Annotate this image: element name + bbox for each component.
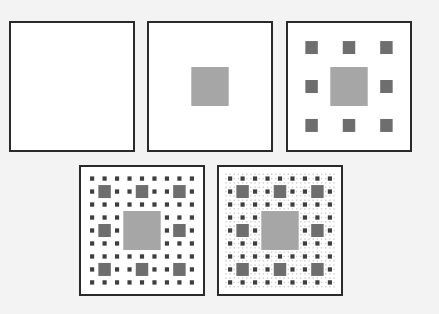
carpet-hole-level-4 — [325, 230, 326, 231]
carpet-hole-level-4 — [246, 178, 247, 179]
carpet-hole-level-4 — [296, 178, 297, 179]
carpet-hole-level-4 — [325, 195, 326, 196]
carpet-hole-level-4 — [283, 178, 284, 179]
carpet-hole-level-4 — [321, 199, 322, 200]
carpet-hole-level-3 — [190, 254, 194, 258]
carpet-hole-level-4 — [259, 191, 260, 192]
carpet-hole-level-3 — [228, 241, 232, 245]
carpet-hole-level-4 — [292, 199, 293, 200]
carpet-hole-level-4 — [333, 174, 334, 175]
carpet-hole-level-4 — [246, 212, 247, 213]
carpet-hole-level-4 — [333, 187, 334, 188]
carpet-hole-level-4 — [296, 264, 297, 265]
carpet-hole-level-4 — [288, 282, 289, 283]
carpet-hole-level-4 — [225, 247, 226, 248]
carpet-hole-level-4 — [279, 182, 280, 183]
carpet-hole-level-4 — [333, 269, 334, 270]
carpet-hole-level-4 — [254, 260, 255, 261]
carpet-hole-level-4 — [279, 208, 280, 209]
carpet-hole-level-4 — [300, 174, 301, 175]
carpet-hole-level-4 — [300, 282, 301, 283]
carpet-hole-level-4 — [304, 247, 305, 248]
carpet-hole-level-3 — [328, 228, 332, 232]
carpet-hole-level-3 — [278, 176, 282, 180]
carpet-hole-level-3 — [241, 176, 245, 180]
carpet-hole-level-4 — [325, 212, 326, 213]
carpet-hole-level-3 — [253, 202, 257, 206]
carpet-hole-level-4 — [250, 174, 251, 175]
carpet-hole-level-3 — [253, 267, 257, 271]
carpet-hole-level-4 — [279, 251, 280, 252]
carpet-hole-level-4 — [242, 174, 243, 175]
carpet-hole-level-3 — [290, 254, 294, 258]
carpet-hole-level-3 — [152, 176, 156, 180]
carpet-hole-level-4 — [296, 269, 297, 270]
carpet-hole-level-4 — [246, 256, 247, 257]
carpet-hole-level-4 — [325, 247, 326, 248]
carpet-hole-level-2 — [136, 263, 148, 276]
carpet-hole-level-2 — [305, 41, 317, 54]
carpet-hole-level-4 — [238, 174, 239, 175]
carpet-hole-level-4 — [308, 238, 309, 239]
carpet-hole-level-3 — [253, 228, 257, 232]
carpet-hole-level-4 — [238, 178, 239, 179]
carpet-hole-level-4 — [250, 251, 251, 252]
carpet-hole-level-4 — [254, 199, 255, 200]
carpet-hole-level-4 — [259, 230, 260, 231]
carpet-hole-level-4 — [246, 217, 247, 218]
carpet-hole-level-4 — [234, 174, 235, 175]
carpet-hole-level-4 — [234, 182, 235, 183]
carpet-hole-level-4 — [333, 199, 334, 200]
carpet-hole-level-4 — [225, 286, 226, 287]
carpet-hole-level-4 — [225, 195, 226, 196]
carpet-hole-level-1 — [191, 67, 228, 106]
carpet-hole-level-4 — [325, 260, 326, 261]
carpet-hole-level-4 — [279, 277, 280, 278]
carpet-hole-level-4 — [271, 264, 272, 265]
carpet-hole-level-4 — [267, 260, 268, 261]
carpet-hole-level-2 — [274, 185, 286, 198]
carpet-hole-level-3 — [303, 215, 307, 219]
carpet-hole-level-4 — [300, 277, 301, 278]
carpet-hole-level-4 — [283, 182, 284, 183]
carpet-hole-level-3 — [253, 254, 257, 258]
carpet-hole-level-4 — [229, 182, 230, 183]
carpet-hole-level-3 — [253, 215, 257, 219]
carpet-hole-level-4 — [304, 199, 305, 200]
carpet-hole-level-3 — [165, 189, 169, 193]
carpet-hole-level-3 — [190, 189, 194, 193]
carpet-hole-level-4 — [300, 217, 301, 218]
carpet-hole-level-4 — [242, 212, 243, 213]
carpet-hole-level-4 — [317, 174, 318, 175]
carpet-hole-level-3 — [165, 241, 169, 245]
carpet-hole-level-3 — [90, 241, 94, 245]
carpet-hole-level-4 — [250, 264, 251, 265]
carpet-hole-level-4 — [313, 221, 314, 222]
carpet-hole-level-4 — [308, 260, 309, 261]
carpet-hole-level-4 — [229, 199, 230, 200]
carpet-hole-level-4 — [333, 208, 334, 209]
carpet-hole-level-4 — [325, 282, 326, 283]
carpet-hole-level-4 — [325, 174, 326, 175]
carpet-hole-level-4 — [313, 260, 314, 261]
carpet-hole-level-3 — [140, 254, 144, 258]
carpet-hole-level-4 — [229, 208, 230, 209]
carpet-hole-level-3 — [140, 176, 144, 180]
carpet-hole-level-3 — [241, 215, 245, 219]
carpet-hole-level-4 — [304, 238, 305, 239]
carpet-hole-level-4 — [313, 182, 314, 183]
carpet-hole-level-4 — [329, 251, 330, 252]
carpet-hole-level-3 — [315, 254, 319, 258]
carpet-hole-level-4 — [263, 256, 264, 257]
carpet-hole-level-4 — [263, 269, 264, 270]
carpet-panel-iteration-0 — [9, 21, 135, 152]
carpet-hole-level-4 — [333, 225, 334, 226]
carpet-hole-level-4 — [271, 187, 272, 188]
carpet-hole-level-4 — [250, 286, 251, 287]
carpet-hole-level-4 — [333, 273, 334, 274]
carpet-hole-level-2 — [343, 41, 355, 54]
carpet-hole-level-4 — [259, 234, 260, 235]
carpet-hole-level-4 — [246, 208, 247, 209]
carpet-hole-level-4 — [246, 182, 247, 183]
carpet-graphic — [11, 23, 133, 150]
